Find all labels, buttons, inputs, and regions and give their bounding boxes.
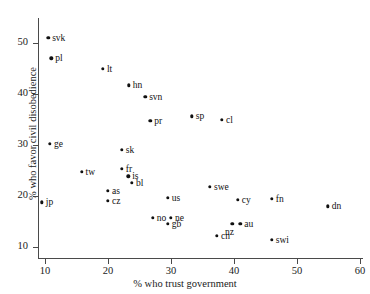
data-point-label-fn: fn [276,194,284,204]
data-point-pr [149,119,152,122]
y-tick-label: 40 [4,87,28,98]
data-point-lt [101,67,104,70]
data-point-label-dn: dn [332,201,342,211]
x-tick-label: 60 [345,265,370,276]
data-point-fr [120,167,123,170]
x-tick-mark [360,259,361,264]
scatter-plot: 1020304050102030405060 svkpllthnsvnprspc… [0,0,370,294]
y-tick-label: 50 [4,36,28,47]
data-point-hn [127,84,130,87]
x-tick-label: 20 [93,265,123,276]
y-tick-label: 10 [4,240,28,251]
data-point-label-tw: tw [86,167,96,177]
data-point-label-svk: svk [52,33,65,43]
data-point-label-ge: ge [54,139,63,149]
data-point-as [106,189,109,192]
x-tick-mark [45,259,46,264]
data-point-svn [143,95,146,98]
data-point-no [151,216,154,219]
y-axis-title: % who favor civil disobedience [27,14,38,254]
data-point-cy [236,198,239,201]
data-point-is [126,174,129,177]
data-point-cz [106,199,109,202]
data-point-label-cy: cy [242,195,251,205]
data-point-label-sp: sp [196,111,204,121]
data-point-label-pr: pr [154,116,162,126]
data-point-gb [166,222,169,225]
data-point-label-gb: gb [172,219,182,229]
data-point-dn [326,204,329,207]
data-point-swi [270,238,273,241]
x-tick-label: 40 [219,265,249,276]
data-point-jp [40,200,43,203]
data-point-label-pl: pl [55,53,62,63]
data-point-label-no: no [157,213,167,223]
data-point-label-cz: cz [112,196,120,206]
data-point-nz [230,222,233,225]
data-point-label-hn: hn [133,80,143,90]
y-axis-line [38,18,39,259]
x-tick-label: 50 [282,265,312,276]
data-point-bl [130,181,133,184]
x-tick-mark [234,259,235,264]
x-axis-line [38,258,363,259]
data-point-label-cl: cl [226,115,233,125]
data-point-label-svn: svn [149,92,162,102]
x-axis-title: % who trust government [0,278,370,289]
data-point-label-cn: cn [221,231,230,241]
y-tick-label: 20 [4,189,28,200]
data-point-svk [46,36,49,39]
data-point-tw [80,170,83,173]
data-point-pl [50,57,53,60]
x-tick-mark [171,259,172,264]
data-point-label-jp: jp [46,197,53,207]
x-tick-mark [297,259,298,264]
data-point-label-bl: bl [136,178,143,188]
data-point-sk [120,148,123,151]
data-point-au [239,222,242,225]
x-tick-label: 30 [156,265,186,276]
data-point-us [166,196,169,199]
y-tick-label: 30 [4,138,28,149]
data-point-cn [215,234,218,237]
data-point-label-swi: swi [276,235,289,245]
data-point-fn [270,197,273,200]
x-tick-mark [108,259,109,264]
data-point-ge [48,142,51,145]
data-point-sp [190,115,193,118]
data-point-label-as: as [112,186,120,196]
data-point-label-swe: swe [214,182,229,192]
data-point-label-lt: lt [107,64,112,74]
data-point-label-au: au [244,219,253,229]
data-point-swe [208,185,211,188]
data-point-label-us: us [172,193,180,203]
x-tick-label: 10 [30,265,60,276]
data-point-label-sk: sk [126,145,134,155]
data-point-cl [220,118,223,121]
